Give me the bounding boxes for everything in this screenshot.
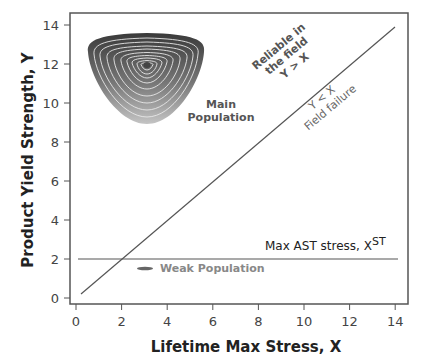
x-tick-label: 2 — [117, 314, 125, 329]
y-tick-label: 12 — [42, 57, 59, 72]
reliable-annotation: Reliable in the field Y > X — [250, 21, 325, 92]
x-tick-label: 10 — [296, 314, 313, 329]
x-tick-label: 4 — [163, 314, 171, 329]
y-tick-label: 14 — [42, 18, 59, 33]
chart: 0 2 4 6 8 10 12 14 0 2 4 6 8 10 12 14 Li… — [0, 0, 424, 363]
main-population-label: Population — [188, 111, 255, 124]
x-axis — [76, 304, 395, 310]
x-tick-label: 0 — [72, 314, 80, 329]
x-tick-label: 12 — [341, 314, 358, 329]
x-axis-label: Lifetime Max Stress, X — [151, 338, 342, 356]
y-tick-label: 0 — [51, 291, 59, 306]
x-tick-label: 8 — [254, 314, 262, 329]
x-tick-label: 14 — [387, 314, 404, 329]
weak-population-label: Weak Population — [160, 262, 265, 275]
y-tick-label: 6 — [51, 174, 59, 189]
main-population-label: Main — [206, 98, 236, 111]
y-axis — [64, 25, 70, 298]
y-tick-label: 4 — [51, 213, 59, 228]
x-tick-label: 6 — [209, 314, 217, 329]
y-tick-label: 8 — [51, 135, 59, 150]
y-axis-label: Product Yield Strength, Y — [19, 51, 37, 267]
weak-population-marker — [137, 267, 153, 271]
y-tick-label: 2 — [51, 252, 59, 267]
y-tick-label: 10 — [42, 96, 59, 111]
max-ast-stress-label: Max AST stress, XST — [265, 235, 386, 253]
field-failure-annotation: Y < X Field failure — [293, 72, 359, 133]
